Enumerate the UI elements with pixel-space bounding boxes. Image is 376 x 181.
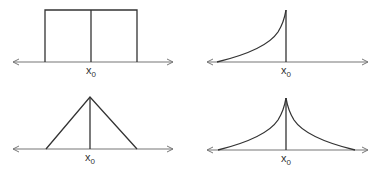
panel-rectangular — [13, 10, 173, 62]
distribution-diagrams — [0, 0, 376, 181]
exp-curve-right — [286, 98, 355, 150]
exp-curve-left — [218, 98, 286, 150]
panel-double-exponential — [207, 98, 368, 150]
x0-label: x0 — [86, 65, 96, 79]
x0-label: x0 — [281, 153, 291, 167]
x0-label: x0 — [281, 65, 291, 79]
exp-curve — [217, 10, 286, 62]
triangle-curve — [46, 97, 137, 149]
panel-one-sided-exponential — [207, 10, 368, 62]
x0-label: x0 — [85, 152, 95, 166]
panel-triangular — [13, 97, 173, 149]
